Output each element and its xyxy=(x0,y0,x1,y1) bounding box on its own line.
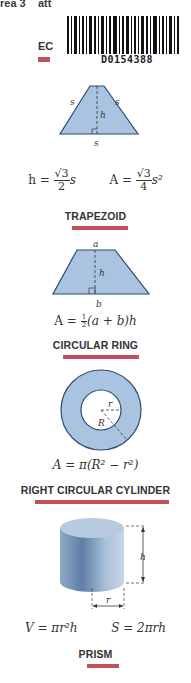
barcode-number: D0154388 xyxy=(64,54,190,65)
top-label: a xyxy=(93,239,98,249)
section-heading-fragment: EC xyxy=(38,40,53,52)
triangle-diagram: s s h s xyxy=(0,68,191,168)
title-underline xyxy=(63,355,139,359)
formula-h-lhs: h = xyxy=(28,173,50,187)
surface-formula: S = 2πrh xyxy=(111,621,166,635)
top-cut-text: rea 3 att xyxy=(0,0,51,9)
section-title-trapezoid: TRAPEZOID xyxy=(0,210,191,222)
formula-a-lhs: A = xyxy=(109,173,132,187)
fraction: √3 4 xyxy=(136,168,152,192)
formula-reference-page: rea 3 att EC D0154388 s s h s h = √3 xyxy=(0,0,191,683)
radius-label: r xyxy=(106,595,111,605)
bottom-label: b xyxy=(96,299,102,309)
base-label: s xyxy=(94,138,99,148)
ring-formula: A = π(R² − r²) xyxy=(0,458,191,472)
side-label-left: s xyxy=(70,97,75,107)
height-label: h xyxy=(140,552,146,562)
cylinder-formulas: V = πr²h S = 2πrh xyxy=(0,621,191,635)
volume-formula: V = πr²h xyxy=(25,621,78,635)
ring-diagram: r R xyxy=(0,360,191,450)
height-label: h xyxy=(100,110,106,120)
title-underline xyxy=(72,226,128,230)
fraction: √3 2 xyxy=(54,168,70,192)
side-label-right: s xyxy=(115,97,120,107)
title-underline xyxy=(35,500,169,504)
barcode-sticker: D0154388 xyxy=(64,10,190,68)
cylinder-diagram: h r xyxy=(0,505,191,615)
inner-radius-label: r xyxy=(108,399,113,409)
triangle-formulas: h = √3 2 s A = √3 4 s² xyxy=(0,168,191,192)
title-underline xyxy=(87,664,119,668)
height-label: h xyxy=(99,268,105,278)
trapezoid-diagram: a h b xyxy=(0,232,191,312)
barcode-icon xyxy=(67,16,187,54)
outer-radius-label: R xyxy=(97,418,105,428)
section-title-circular-ring: CIRCULAR RING xyxy=(0,339,191,351)
trapezoid-formula: A = 1 2 (a + b)h xyxy=(0,314,191,330)
section-title-cylinder: RIGHT CIRCULAR CYLINDER xyxy=(0,484,191,496)
heading-underline xyxy=(38,57,50,62)
section-title-prism: PRISM xyxy=(0,648,191,660)
